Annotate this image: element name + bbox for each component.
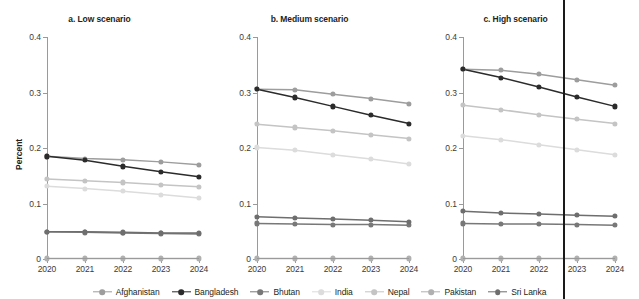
legend-marker-icon: [488, 289, 507, 296]
x-tick-label-b-2: 2022: [324, 264, 343, 274]
data-point-nepal-2024: [612, 121, 617, 126]
x-axis-b: [257, 258, 409, 259]
legend-item-nepal[interactable]: Nepal: [365, 287, 410, 297]
data-point-india-2024: [196, 195, 201, 200]
x-tick-label-c-4: 2024: [606, 264, 625, 274]
legend-item-bangladesh[interactable]: Bangladesh: [172, 287, 239, 297]
x-tick-label-c-2: 2022: [530, 264, 549, 274]
data-point-nepal-2024: [196, 184, 201, 189]
panel-title-c: c. High scenario: [416, 14, 615, 24]
legend-label: Sri Lanka: [511, 287, 546, 297]
plot-area-b: 00.10.20.30.420202021202220232024: [257, 37, 409, 259]
x-axis-c: [463, 258, 615, 259]
y-tick-label-c-1: 0.1: [445, 199, 457, 209]
panel-a: a. Low scenario00.10.20.30.4202020212022…: [0, 0, 219, 275]
y-tick-label-b-0: 0: [246, 254, 251, 264]
y-tick-label-c-0: 0: [452, 254, 457, 264]
legend-marker-icon: [421, 289, 440, 296]
data-point-afghanistan-2024: [612, 83, 617, 88]
legend-marker-icon: [250, 289, 269, 296]
x-tick-label-a-2: 2022: [114, 264, 133, 274]
x-tick-label-b-1: 2021: [286, 264, 305, 274]
x-tick-label-a-3: 2023: [152, 264, 171, 274]
chart-legend: AfghanistanBangladeshBhutanIndiaNepalPak…: [0, 287, 639, 297]
x-tick-label-c-1: 2021: [492, 264, 511, 274]
vertical-rule-annotation: [563, 0, 565, 299]
y-tick-label-a-4: 0.4: [29, 32, 41, 42]
legend-marker-icon: [93, 289, 112, 296]
legend-item-pakistan[interactable]: Pakistan: [421, 287, 476, 297]
x-tick-label-a-0: 2020: [38, 264, 57, 274]
legend-marker-icon: [365, 289, 384, 296]
y-tick-label-a-1: 0.1: [29, 199, 41, 209]
plot-area-a: 00.10.20.30.420202021202220232024: [47, 37, 199, 259]
legend-item-bhutan[interactable]: Bhutan: [250, 287, 299, 297]
plot-area-c: 00.10.20.30.420202021202220232024: [463, 37, 615, 259]
data-point-afghanistan-2024: [406, 101, 411, 106]
data-point-sri-lanka-2024: [612, 214, 617, 219]
legend-label: Nepal: [388, 287, 410, 297]
y-tick-label-c-2: 0.2: [445, 143, 457, 153]
panel-c: c. High scenario00.10.20.30.420202021202…: [416, 0, 635, 275]
data-point-india-2024: [612, 152, 617, 157]
x-axis-a: [47, 258, 199, 259]
y-tick-label-b-4: 0.4: [239, 32, 251, 42]
legend-label: Bhutan: [273, 287, 299, 297]
series-lines-a: [47, 37, 199, 259]
legend-label: Pakistan: [444, 287, 476, 297]
x-tick-label-c-0: 2020: [454, 264, 473, 274]
y-tick-label-b-1: 0.1: [239, 199, 251, 209]
data-point-bhutan-2024: [612, 223, 617, 228]
y-tick-label-b-2: 0.2: [239, 143, 251, 153]
chart-figure: a. Low scenario00.10.20.30.4202020212022…: [0, 0, 639, 299]
legend-label: India: [335, 287, 353, 297]
y-axis-label: Percent: [14, 139, 24, 170]
y-tick-label-a-0: 0: [36, 254, 41, 264]
legend-item-sri-lanka[interactable]: Sri Lanka: [488, 287, 546, 297]
legend-item-afghanistan[interactable]: Afghanistan: [93, 287, 160, 297]
data-point-bangladesh-2024: [612, 104, 617, 109]
x-tick-label-a-4: 2024: [190, 264, 209, 274]
data-point-nepal-2024: [406, 136, 411, 141]
panel-b: b. Medium scenario00.10.20.30.4202020212…: [210, 0, 429, 275]
legend-marker-icon: [172, 289, 191, 296]
legend-item-india[interactable]: India: [312, 287, 353, 297]
data-point-india-2024: [406, 162, 411, 167]
y-tick-label-c-3: 0.3: [445, 88, 457, 98]
legend-marker-icon: [312, 289, 331, 296]
panel-title-b: b. Medium scenario: [210, 14, 409, 24]
data-point-bangladesh-2024: [196, 174, 201, 179]
legend-label: Afghanistan: [116, 287, 160, 297]
y-tick-label-b-3: 0.3: [239, 88, 251, 98]
x-tick-label-b-0: 2020: [248, 264, 267, 274]
data-point-bangladesh-2024: [406, 121, 411, 126]
y-tick-label-c-4: 0.4: [445, 32, 457, 42]
panel-title-a: a. Low scenario: [0, 14, 199, 24]
legend-label: Bangladesh: [195, 287, 239, 297]
x-tick-label-c-3: 2023: [568, 264, 587, 274]
y-tick-label-a-3: 0.3: [29, 88, 41, 98]
data-point-afghanistan-2024: [196, 162, 201, 167]
x-tick-label-a-1: 2021: [76, 264, 95, 274]
y-tick-label-a-2: 0.2: [29, 143, 41, 153]
x-tick-label-b-3: 2023: [362, 264, 381, 274]
